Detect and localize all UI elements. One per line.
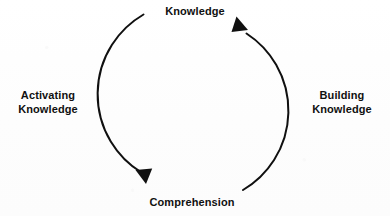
arrowhead-to-knowledge: [232, 17, 249, 33]
cycle-diagram: Knowledge Comprehension Activating Knowl…: [0, 0, 390, 216]
arc-activating-knowledge: [98, 15, 144, 173]
node-label-knowledge: Knowledge: [145, 5, 245, 19]
node-label-comprehension: Comprehension: [132, 196, 252, 210]
arc-building-knowledge: [243, 34, 288, 191]
arrowhead-to-comprehension: [136, 169, 153, 184]
edge-label-activating-knowledge: Activating Knowledge: [4, 89, 92, 116]
edge-label-building-knowledge: Building Knowledge: [298, 89, 386, 116]
